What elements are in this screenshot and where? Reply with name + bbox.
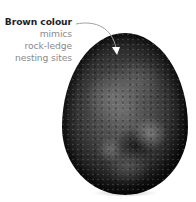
- egg-speckle-texture: [62, 33, 188, 195]
- egg-image: [62, 33, 188, 195]
- annotation-title: Brown colour: [5, 16, 72, 28]
- egg-shadow: [92, 189, 158, 197]
